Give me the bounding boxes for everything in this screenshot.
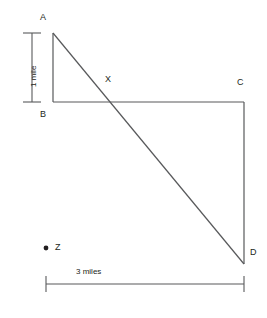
- vertex-label-A: A: [40, 13, 46, 22]
- horizontal-dimension-bracket: [46, 276, 244, 292]
- vertex-label-B: B: [40, 110, 46, 119]
- dimension-label-1-mile: 1 mile: [30, 66, 38, 87]
- vertex-label-D: D: [250, 248, 257, 257]
- dimension-label-3-miles: 3 miles: [76, 268, 101, 276]
- vertex-label-Z: Z: [55, 243, 61, 252]
- vertex-label-X: X: [105, 75, 111, 84]
- vertex-label-C: C: [237, 78, 244, 87]
- geometry-canvas: [0, 0, 267, 318]
- geometry-diagram: A B C D X Z 1 mile 3 miles: [0, 0, 267, 318]
- segment-AD-diagonal: [53, 33, 244, 264]
- point-marker-Z: [44, 246, 49, 251]
